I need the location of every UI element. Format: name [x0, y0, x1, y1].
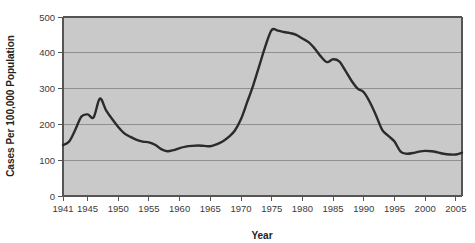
chart-figure: 0100200300400500 19411945195019551960196…	[0, 0, 475, 243]
x-axis-title: Year	[251, 230, 272, 241]
x-tick-label-2000: 2000	[415, 203, 436, 214]
x-tick-label-1945: 1945	[77, 203, 98, 214]
plot-area-background	[63, 17, 462, 196]
x-tick-label-1970: 1970	[230, 203, 251, 214]
x-tick-label-1995: 1995	[384, 203, 405, 214]
y-tick-label-200: 200	[39, 119, 55, 130]
y-axis-title: Cases Per 100,000 Population	[5, 35, 16, 177]
x-tick-label-1955: 1955	[138, 203, 159, 214]
y-tick-label-300: 300	[39, 83, 55, 94]
x-tick-label-1990: 1990	[353, 203, 374, 214]
y-tick-label-0: 0	[50, 191, 55, 202]
x-tick-label-2005: 2005	[445, 203, 466, 214]
x-tick-label-1975: 1975	[261, 203, 282, 214]
x-tick-label-1985: 1985	[323, 203, 344, 214]
y-axis-ticks: 0100200300400500	[39, 12, 63, 202]
x-tick-label-1980: 1980	[292, 203, 313, 214]
x-tick-label-1965: 1965	[200, 203, 221, 214]
x-tick-label-1960: 1960	[169, 203, 190, 214]
y-tick-label-100: 100	[39, 155, 55, 166]
y-tick-label-500: 500	[39, 12, 55, 23]
y-tick-label-400: 400	[39, 47, 55, 58]
x-tick-label-1941: 1941	[52, 203, 73, 214]
line-chart: 0100200300400500 19411945195019551960196…	[0, 0, 475, 243]
x-axis-ticks: 1941194519501955196019651970197519801985…	[52, 196, 466, 214]
x-tick-label-1950: 1950	[108, 203, 129, 214]
